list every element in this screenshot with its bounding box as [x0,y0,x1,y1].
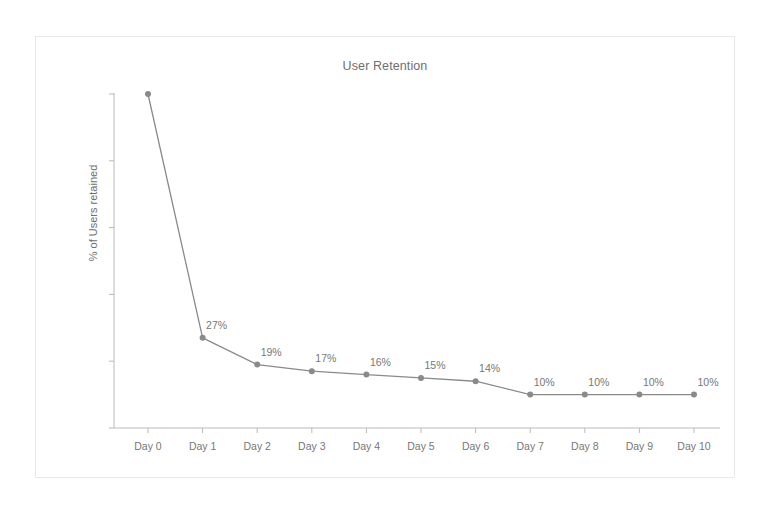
data-point-label: 10% [643,376,664,388]
data-point-marker[interactable] [473,378,479,384]
data-point-label: 19% [261,346,282,358]
data-point-label: 17% [315,352,336,364]
chart-frame: User Retention % of Users retained 0%20%… [35,36,735,478]
data-point-marker[interactable] [363,372,369,378]
retention-line-series [36,37,736,479]
series-line [148,94,694,395]
data-point-label: 10% [588,376,609,388]
data-point-marker[interactable] [582,392,588,398]
data-point-marker[interactable] [145,91,151,97]
data-point-marker[interactable] [309,368,315,374]
data-point-marker[interactable] [200,335,206,341]
data-point-marker[interactable] [254,362,260,368]
data-point-label: 15% [424,359,445,371]
data-point-marker[interactable] [527,392,533,398]
plot-area: % of Users retained 0%20%40%60%80%100% D… [36,37,736,479]
data-point-marker[interactable] [636,392,642,398]
data-point-label: 27% [206,319,227,331]
data-point-label: 16% [370,356,391,368]
data-point-label: 10% [534,376,555,388]
data-point-label: 14% [479,362,500,374]
data-point-marker[interactable] [691,392,697,398]
data-point-marker[interactable] [418,375,424,381]
data-point-label: 10% [697,376,718,388]
